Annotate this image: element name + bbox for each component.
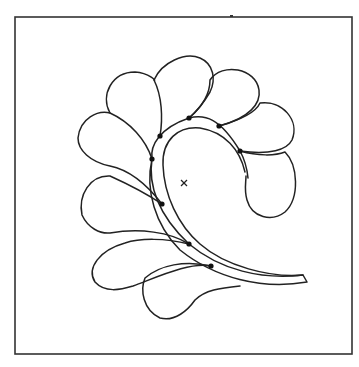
node-dot xyxy=(149,156,154,161)
leaf-bottom xyxy=(143,263,240,318)
node-dot xyxy=(237,148,242,153)
leaf-lower-left xyxy=(81,176,189,244)
node-dot xyxy=(208,263,213,268)
leaf-mid-left xyxy=(78,112,162,204)
node-dot xyxy=(159,201,164,206)
node-dot xyxy=(186,241,191,246)
leaf-junction-nodes xyxy=(149,115,242,268)
feather-diagram xyxy=(0,0,359,367)
diagram-frame xyxy=(15,17,352,354)
leaf-top-left xyxy=(106,72,154,159)
node-dot xyxy=(216,123,221,128)
leaf-top-center xyxy=(154,56,213,136)
center-x-mark-icon xyxy=(181,180,187,186)
leaf-right-lower xyxy=(240,151,296,217)
node-dot xyxy=(157,133,162,138)
node-dot xyxy=(186,115,191,120)
leaf-right-upper xyxy=(219,103,294,153)
